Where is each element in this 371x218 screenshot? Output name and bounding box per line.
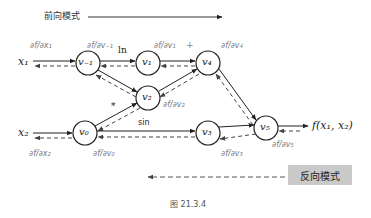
edge-v0-v2 bbox=[95, 103, 137, 126]
op-plus: + bbox=[186, 41, 194, 50]
deriv-v-minus-1: ∂f/∂v₋₁ bbox=[87, 42, 113, 50]
back-edge-v5-v4 bbox=[216, 74, 253, 125]
op-sin: sin bbox=[138, 119, 149, 127]
forward-mode-label: 前向模式 bbox=[44, 12, 80, 21]
deriv-x2: ∂f/∂x₂ bbox=[29, 150, 51, 158]
op-mult: * bbox=[111, 102, 116, 111]
edge-v2-v4 bbox=[159, 69, 197, 91]
back-edge-v2-v0 bbox=[98, 108, 140, 131]
node-label-v1: v₁ bbox=[142, 57, 152, 67]
deriv-v0: ∂f/∂v₀ bbox=[93, 150, 115, 158]
edge-vm1-v2 bbox=[98, 70, 137, 92]
node-label-v4: v₄ bbox=[202, 57, 212, 67]
edge-v4-v5 bbox=[219, 69, 256, 120]
op-ln: ln bbox=[118, 46, 127, 55]
input-x2: x₂ bbox=[18, 127, 29, 138]
node-label-v5: v₅ bbox=[260, 122, 270, 132]
node-label-v-minus-1: v₋₁ bbox=[78, 57, 93, 67]
input-x1: x₁ bbox=[18, 56, 29, 67]
figure-caption: 图 21.3.4 bbox=[170, 201, 206, 209]
deriv-x1: ∂f/∂x₁ bbox=[30, 42, 52, 50]
edge-v3-v5 bbox=[219, 125, 254, 127]
deriv-v1: ∂f/∂v₁ bbox=[154, 42, 176, 50]
back-edge-v5-v3 bbox=[220, 134, 256, 139]
node-label-v3: v₃ bbox=[202, 127, 212, 137]
back-edge-v4-v2 bbox=[160, 74, 199, 97]
node-label-v2: v₂ bbox=[142, 92, 152, 102]
back-edge-v2-vm1 bbox=[96, 75, 136, 97]
deriv-v5: ∂f/∂v₅ bbox=[272, 141, 294, 149]
computation-graph bbox=[0, 0, 371, 218]
reverse-mode-label: 反向模式 bbox=[300, 168, 340, 183]
deriv-v3: ∂f/∂v₃ bbox=[221, 150, 243, 158]
deriv-v4: ∂f/∂v₄ bbox=[221, 42, 243, 50]
output-f: f(x₁, x₂) bbox=[312, 120, 353, 131]
node-label-v0: v₀ bbox=[79, 127, 89, 137]
reverse-mode-box: 反向模式 bbox=[288, 165, 352, 185]
deriv-v2: ∂f/∂v₂ bbox=[163, 101, 185, 109]
